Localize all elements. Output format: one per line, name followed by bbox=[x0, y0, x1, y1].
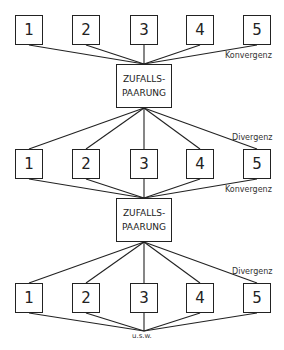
box-number: 4 bbox=[195, 21, 205, 39]
row2-box-5: 5 bbox=[243, 149, 271, 179]
box-number: 1 bbox=[24, 289, 34, 307]
random-pairing-box-2: ZUFALLS- PAARUNG bbox=[116, 198, 172, 242]
row2-box-2: 2 bbox=[72, 149, 100, 179]
row3-box-2: 2 bbox=[72, 283, 100, 313]
pairing-line1: ZUFALLS- bbox=[123, 206, 165, 220]
box-number: 5 bbox=[252, 21, 262, 39]
pairing-line2: PAARUNG bbox=[122, 86, 166, 100]
convergence-label-1: Konvergenz bbox=[225, 51, 272, 60]
box-number: 3 bbox=[139, 21, 149, 39]
box-number: 4 bbox=[195, 289, 205, 307]
row1-box-4: 4 bbox=[186, 15, 214, 45]
row3-box-4: 4 bbox=[186, 283, 214, 313]
row1-box-3: 3 bbox=[130, 15, 158, 45]
box-number: 5 bbox=[252, 155, 262, 173]
pairing-line1: ZUFALLS- bbox=[123, 72, 165, 86]
row2-box-3: 3 bbox=[130, 149, 158, 179]
row3-box-5: 5 bbox=[243, 283, 271, 313]
box-number: 2 bbox=[81, 155, 91, 173]
divergence-label-2: Divergenz bbox=[232, 267, 272, 276]
box-number: 2 bbox=[81, 289, 91, 307]
random-pairing-box-1: ZUFALLS- PAARUNG bbox=[116, 64, 172, 108]
row3-box-1: 1 bbox=[15, 283, 43, 313]
row1-box-2: 2 bbox=[72, 15, 100, 45]
pairing-line2: PAARUNG bbox=[122, 220, 166, 234]
box-number: 1 bbox=[24, 21, 34, 39]
convergence-label-2: Konvergenz bbox=[225, 185, 272, 194]
box-number: 1 bbox=[24, 155, 34, 173]
row3-box-3: 3 bbox=[130, 283, 158, 313]
box-number: 2 bbox=[81, 21, 91, 39]
row2-box-4: 4 bbox=[186, 149, 214, 179]
row2-box-1: 1 bbox=[15, 149, 43, 179]
box-number: 5 bbox=[252, 289, 262, 307]
etc-label: u.s.w. bbox=[132, 332, 152, 340]
box-number: 4 bbox=[195, 155, 205, 173]
row1-box-1: 1 bbox=[15, 15, 43, 45]
divergence-label-1: Divergenz bbox=[232, 133, 272, 142]
box-number: 3 bbox=[139, 155, 149, 173]
row1-box-5: 5 bbox=[243, 15, 271, 45]
box-number: 3 bbox=[139, 289, 149, 307]
